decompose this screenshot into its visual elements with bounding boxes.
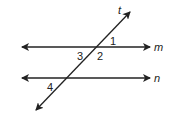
angle-3-label: 3 <box>77 50 83 62</box>
angle-1-label: 1 <box>110 35 116 47</box>
label-n: n <box>154 72 160 84</box>
angle-2-label: 2 <box>97 50 103 62</box>
label-m: m <box>154 41 163 53</box>
angle-4-label: 4 <box>47 81 53 93</box>
parallel-lines-diagram: t m n 1 2 3 4 <box>0 0 171 118</box>
label-t: t <box>118 4 122 16</box>
